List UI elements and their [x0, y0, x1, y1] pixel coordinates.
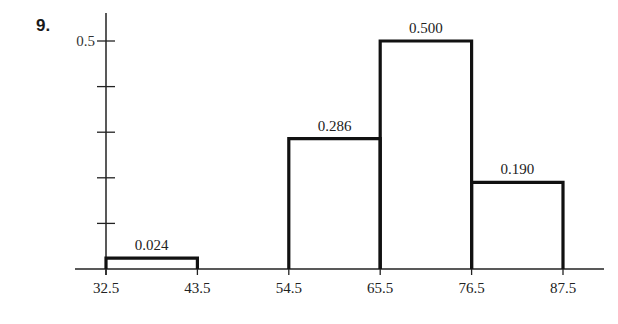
x-tick-label: 76.5: [458, 280, 484, 296]
bar-value-label: 0.024: [135, 237, 169, 253]
labels: 0.532.543.554.565.576.587.50.0240.2860.5…: [76, 20, 576, 296]
y-tick-label: 0.5: [76, 33, 95, 49]
x-tick-label: 43.5: [184, 280, 210, 296]
bars: [106, 41, 563, 269]
axes: [75, 13, 604, 275]
histogram-bar: [106, 258, 197, 269]
x-tick-label: 65.5: [367, 280, 393, 296]
bar-value-label: 0.190: [500, 161, 534, 177]
x-tick-label: 32.5: [93, 280, 119, 296]
histogram-bar: [472, 182, 563, 269]
bar-value-label: 0.500: [409, 20, 443, 36]
bar-value-label: 0.286: [318, 118, 352, 134]
histogram-bar: [380, 41, 471, 269]
x-tick-label: 87.5: [550, 280, 576, 296]
histogram-chart: 0.532.543.554.565.576.587.50.0240.2860.5…: [0, 0, 618, 324]
histogram-bar: [289, 139, 380, 269]
x-tick-label: 54.5: [276, 280, 302, 296]
